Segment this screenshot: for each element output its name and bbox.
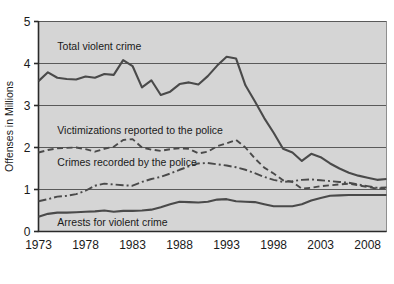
x-tick-label-2008: 2008 xyxy=(354,238,381,252)
y-axis-title: Offenses in Millions xyxy=(3,81,15,172)
line-chart: 012345 19731978198319881993199820032008 … xyxy=(0,0,394,284)
series-label-crimes-recorded-by-the-police: Crimes recorded by the police xyxy=(57,156,197,168)
series-label-arrests-for-violent-crime: Arrests for violent crime xyxy=(57,216,167,228)
y-tick-label-5: 5 xyxy=(24,15,31,29)
y-tick-label-1: 1 xyxy=(24,183,31,197)
y-axis-title-text: Offenses in Millions xyxy=(3,81,15,172)
x-tick-label-1978: 1978 xyxy=(72,238,99,252)
x-tick-label-1973: 1973 xyxy=(25,238,52,252)
chart-container: 012345 19731978198319881993199820032008 … xyxy=(0,0,394,284)
y-tick-label-2: 2 xyxy=(24,141,31,155)
series-label-victimizations-reported-to-the-police: Victimizations reported to the police xyxy=(57,124,223,136)
y-tick-label-3: 3 xyxy=(24,99,31,113)
series-label-total-violent-crime: Total violent crime xyxy=(57,40,141,52)
x-tick-label-1998: 1998 xyxy=(260,238,287,252)
y-tick-label-4: 4 xyxy=(24,57,31,71)
x-tick-label-1983: 1983 xyxy=(119,238,146,252)
x-tick-label-1993: 1993 xyxy=(213,238,240,252)
x-tick-label-1988: 1988 xyxy=(166,238,193,252)
x-tick-label-2003: 2003 xyxy=(307,238,334,252)
